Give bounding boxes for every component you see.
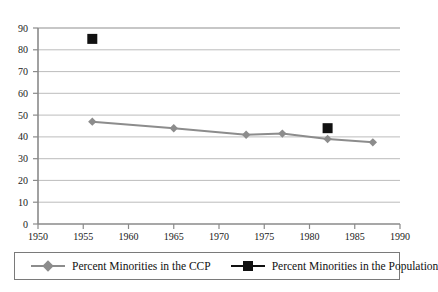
y-tick-label: 80 [18,44,28,55]
plot-area-background [38,28,400,224]
square-marker-icon [231,260,265,272]
y-tick-label: 70 [18,66,28,77]
y-tick-label: 60 [18,88,28,99]
x-tick-label: 1985 [345,231,365,242]
x-tick-label: 1990 [390,231,410,242]
x-tick-label: 1965 [164,231,184,242]
y-tick-label: 10 [18,197,28,208]
diamond-marker-icon [31,260,65,272]
x-tick-label: 1950 [28,231,48,242]
y-tick-label: 0 [23,219,28,230]
legend-label-ccp: Percent Minorities in the CCP [72,260,211,272]
y-tick-label: 40 [18,131,28,142]
x-tick-label: 1960 [119,231,139,242]
y-tick-label: 20 [18,175,28,186]
y-tick-label: 90 [18,23,28,34]
y-tick-label: 30 [18,153,28,164]
data-point-square [323,123,333,133]
legend-label-population: Percent Minorities in the Population [272,260,438,272]
y-tick-label: 50 [18,110,28,121]
y-axis-tick-labels: 90 80 70 60 50 40 30 20 10 0 [18,23,28,230]
legend-item-population: Percent Minorities in the Population [211,253,438,279]
x-tick-label: 1975 [254,231,274,242]
chart-legend: Percent Minorities in the CCP Percent Mi… [14,252,400,280]
x-tick-label: 1980 [300,231,320,242]
legend-item-ccp: Percent Minorities in the CCP [15,253,211,279]
data-point-square [87,34,97,44]
x-tick-label: 1970 [209,231,229,242]
x-axis-tick-labels: 1950 1955 1960 1965 1970 1975 1980 1985 … [28,231,410,242]
x-tick-label: 1955 [73,231,93,242]
